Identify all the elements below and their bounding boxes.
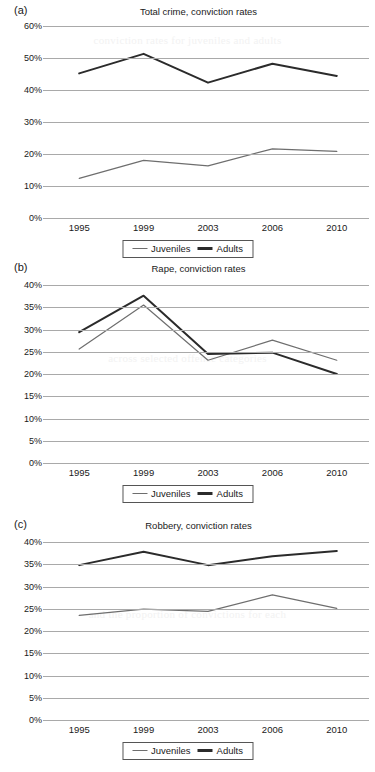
y-tick-mark	[43, 186, 47, 187]
x-axis-labels-a: 1995 1999 2003 2006 2010	[47, 222, 369, 233]
figure-page: conviction rates for juveniles and adult…	[0, 0, 375, 772]
y-tick-mark	[43, 218, 47, 219]
y-tick-label: 50%	[24, 53, 42, 63]
y-tick-label: 20%	[24, 626, 42, 636]
gridline	[47, 58, 369, 59]
gridline	[47, 307, 369, 308]
y-tick-mark	[43, 463, 47, 464]
y-tick-mark	[43, 676, 47, 677]
gridline	[47, 285, 369, 286]
legend-label: Juveniles	[151, 243, 191, 254]
y-tick-mark	[43, 564, 47, 565]
legend-label: Adults	[217, 243, 243, 254]
x-axis-labels-c: 1995 1999 2003 2006 2010	[47, 724, 369, 735]
gridline	[47, 396, 369, 397]
x-tick-label: 1995	[47, 222, 111, 233]
y-tick-mark	[43, 441, 47, 442]
y-tick-mark	[43, 26, 47, 27]
x-tick-label: 2006	[240, 467, 304, 478]
chart-legend-c: Juveniles Adults	[122, 742, 253, 760]
legend-item-adults: Adults	[198, 488, 243, 499]
y-tick-label: 5%	[29, 693, 42, 703]
plot-area-c: 0%5%10%15%20%25%30%35%40%	[47, 542, 369, 720]
x-tick-label: 2003	[176, 222, 240, 233]
y-tick-label: 10%	[24, 671, 42, 681]
gridline	[47, 609, 369, 610]
legend-item-adults: Adults	[198, 243, 243, 254]
legend-item-juveniles: Juveniles	[132, 243, 191, 254]
gridline	[47, 352, 369, 353]
x-tick-label: 1999	[111, 222, 175, 233]
y-tick-mark	[43, 631, 47, 632]
x-tick-label: 2010	[305, 222, 369, 233]
y-tick-label: 35%	[24, 559, 42, 569]
gridline	[47, 653, 369, 654]
y-tick-label: 20%	[24, 149, 42, 159]
gridline	[47, 90, 369, 91]
x-tick-label: 1999	[111, 467, 175, 478]
chart-title-c: Robbery, conviction rates	[0, 520, 375, 531]
legend-line-icon-adults	[198, 749, 213, 751]
y-tick-label: 25%	[24, 604, 42, 614]
y-tick-label: 15%	[24, 391, 42, 401]
chart-title-a: Total crime, conviction rates	[0, 6, 375, 17]
y-tick-label: 60%	[24, 21, 42, 31]
gridline	[47, 631, 369, 632]
gridline	[47, 720, 369, 721]
x-tick-label: 1995	[47, 724, 111, 735]
plot-area-b: 0%5%10%15%20%25%30%35%40%	[47, 285, 369, 463]
gridline	[47, 186, 369, 187]
gridline	[47, 419, 369, 420]
y-tick-label: 35%	[24, 302, 42, 312]
gridline	[47, 542, 369, 543]
x-tick-label: 1995	[47, 467, 111, 478]
x-tick-label: 2006	[240, 724, 304, 735]
chart-panel-a: (a) Total crime, conviction rates 0%10%2…	[0, 0, 375, 257]
y-tick-mark	[43, 653, 47, 654]
gridline	[47, 374, 369, 375]
gridline	[47, 154, 369, 155]
legend-item-juveniles: Juveniles	[132, 745, 191, 756]
series-line-juveniles	[79, 595, 337, 615]
y-tick-label: 10%	[24, 181, 42, 191]
y-tick-mark	[43, 154, 47, 155]
y-tick-label: 40%	[24, 85, 42, 95]
legend-line-icon-juveniles	[132, 493, 147, 495]
gridline	[47, 122, 369, 123]
y-tick-label: 30%	[24, 325, 42, 335]
y-tick-label: 40%	[24, 537, 42, 547]
x-axis-labels-b: 1995 1999 2003 2006 2010	[47, 467, 369, 478]
legend-label: Juveniles	[151, 488, 191, 499]
gridline	[47, 463, 369, 464]
y-tick-label: 30%	[24, 582, 42, 592]
y-tick-mark	[43, 419, 47, 420]
y-tick-label: 25%	[24, 347, 42, 357]
y-tick-mark	[43, 90, 47, 91]
x-tick-label: 1999	[111, 724, 175, 735]
x-tick-label: 2010	[305, 467, 369, 478]
chart-legend-a: Juveniles Adults	[122, 240, 253, 258]
y-tick-label: 5%	[29, 436, 42, 446]
legend-line-icon-juveniles	[132, 248, 147, 250]
y-tick-label: 20%	[24, 369, 42, 379]
x-tick-label: 2003	[176, 724, 240, 735]
chart-title-b: Rape, conviction rates	[0, 263, 375, 274]
gridline	[47, 330, 369, 331]
y-tick-label: 0%	[29, 213, 42, 223]
gridline	[47, 26, 369, 27]
y-tick-label: 40%	[24, 280, 42, 290]
y-tick-mark	[43, 542, 47, 543]
legend-line-icon-adults	[198, 492, 213, 494]
y-tick-mark	[43, 285, 47, 286]
y-tick-mark	[43, 122, 47, 123]
y-tick-mark	[43, 587, 47, 588]
chart-legend-b: Juveniles Adults	[122, 485, 253, 503]
y-tick-mark	[43, 58, 47, 59]
gridline	[47, 676, 369, 677]
y-tick-mark	[43, 307, 47, 308]
y-tick-mark	[43, 609, 47, 610]
y-tick-mark	[43, 352, 47, 353]
legend-label: Juveniles	[151, 745, 191, 756]
y-tick-mark	[43, 698, 47, 699]
legend-item-adults: Adults	[198, 745, 243, 756]
